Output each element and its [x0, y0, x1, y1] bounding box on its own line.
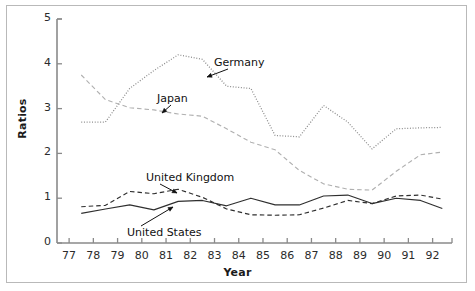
x-tick-label-91: 91 [395, 249, 421, 262]
y-tick-label-0: 0 [29, 235, 51, 248]
y-tick-label-2: 2 [29, 145, 51, 158]
series-label-japan: Japan [157, 92, 188, 105]
chart-series [81, 55, 442, 215]
x-tick-label-84: 84 [226, 249, 252, 262]
series-line-united-states [81, 195, 442, 213]
x-tick-label-92: 92 [420, 249, 446, 262]
x-tick-label-88: 88 [323, 249, 349, 262]
series-label-united-states: United States [127, 226, 202, 239]
x-tick-label-79: 79 [105, 249, 131, 262]
series-line-united-kingdom [81, 189, 442, 215]
series-label-united-kingdom: United Kingdom [146, 171, 234, 184]
x-tick-label-83: 83 [202, 249, 228, 262]
y-tick-label-3: 3 [29, 101, 51, 114]
x-tick-label-90: 90 [371, 249, 397, 262]
line-chart-canvas [0, 0, 475, 291]
x-tick-label-89: 89 [347, 249, 373, 262]
x-tick-label-77: 77 [56, 249, 82, 262]
y-tick-label-1: 1 [29, 190, 51, 203]
y-tick-label-5: 5 [29, 11, 51, 24]
x-tick-label-81: 81 [153, 249, 179, 262]
series-label-germany: Germany [214, 56, 265, 69]
y-tick-label-4: 4 [29, 56, 51, 69]
series-line-japan [81, 75, 442, 190]
x-tick-label-87: 87 [298, 249, 324, 262]
y-axis-title: Ratios [16, 89, 29, 149]
annotation-arrowhead [168, 207, 173, 211]
annotation-arrowhead [207, 73, 212, 77]
chart-axes [57, 19, 452, 243]
x-tick-label-80: 80 [129, 249, 155, 262]
x-tick-label-78: 78 [80, 249, 106, 262]
x-axis-title: Year [0, 266, 475, 279]
x-tick-label-85: 85 [250, 249, 276, 262]
x-tick-label-86: 86 [274, 249, 300, 262]
annotation-leader-line [141, 207, 173, 226]
x-tick-label-82: 82 [177, 249, 203, 262]
